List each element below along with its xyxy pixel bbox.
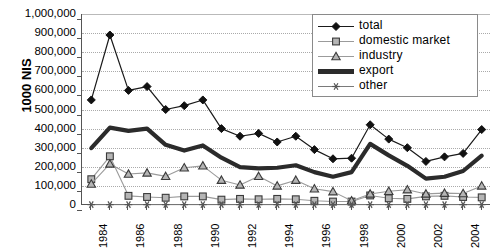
x-tick-label: 1988 (173, 224, 184, 248)
legend-key-icon (317, 49, 355, 62)
data-point-square (333, 38, 340, 45)
legend-item-industry[interactable]: industry (317, 48, 473, 63)
y-tick-label: 800,000 (0, 46, 76, 58)
x-tick-mark (146, 205, 147, 210)
data-point-diamond (441, 153, 449, 161)
x-tick-mark (90, 205, 91, 210)
x-tick-label: 1990 (210, 224, 221, 248)
x-tick-label: 2002 (433, 224, 444, 248)
data-point-diamond (332, 23, 340, 31)
y-tick-label: 400,000 (0, 123, 76, 135)
x-tick-label: 1994 (284, 224, 295, 248)
data-point-star (332, 83, 340, 90)
legend-label: industry (355, 49, 403, 62)
x-tick-mark (109, 205, 110, 210)
x-tick-mark (127, 205, 128, 210)
legend-label: other (355, 79, 387, 92)
y-tick-label: 700,000 (0, 65, 76, 77)
y-tick-label: 200,000 (0, 161, 76, 173)
y-tick-label: 900,000 (0, 27, 76, 39)
x-tick-mark (313, 205, 314, 210)
data-point-diamond (329, 155, 337, 163)
data-point-square (404, 195, 411, 202)
data-point-diamond (310, 146, 318, 154)
data-point-square (181, 193, 188, 200)
y-tick-label: 100,000 (0, 180, 76, 192)
x-tick-label: 2004 (470, 224, 481, 248)
legend-key-icon (317, 64, 355, 77)
y-tick-label: 1,000,000 (0, 8, 76, 20)
data-point-diamond (106, 31, 114, 39)
data-point-diamond (199, 96, 207, 104)
data-point-triangle (310, 185, 318, 192)
x-tick-mark (295, 205, 296, 210)
x-tick-mark (388, 205, 389, 210)
data-point-square (199, 193, 206, 200)
x-tick-label: 1986 (135, 224, 146, 248)
x-tick-mark (481, 205, 482, 210)
legend-label: export (355, 64, 394, 77)
legend-item-domestic-market[interactable]: domestic market (317, 33, 473, 48)
data-point-square (125, 192, 132, 199)
legend-item-total[interactable]: total (317, 18, 473, 33)
x-tick-mark (444, 205, 445, 210)
data-point-diamond (292, 132, 300, 140)
data-point-triangle (403, 186, 411, 193)
legend: totaldomestic marketindustryexportother (312, 14, 478, 97)
y-tick-label: 600,000 (0, 84, 76, 96)
x-tick-label: 1992 (247, 224, 258, 248)
x-tick-mark (165, 205, 166, 210)
data-point-square (218, 196, 225, 203)
x-tick-label: 2000 (396, 224, 407, 248)
x-tick-mark (332, 205, 333, 210)
data-point-square (478, 194, 485, 201)
data-point-square (385, 195, 392, 202)
data-point-triangle (143, 169, 151, 176)
data-point-diamond (180, 102, 188, 110)
x-tick-mark (239, 205, 240, 210)
x-tick-mark (425, 205, 426, 210)
x-tick-label: 1984 (98, 224, 109, 248)
y-tick-label: 500,000 (0, 104, 76, 116)
data-point-diamond (273, 138, 281, 146)
x-tick-mark (220, 205, 221, 210)
data-point-square (144, 194, 151, 201)
series-export (91, 128, 481, 179)
data-point-square (237, 195, 244, 202)
legend-label: total (355, 19, 383, 32)
data-point-triangle (254, 172, 262, 179)
data-point-diamond (217, 125, 225, 133)
y-tick-label: 0 (0, 199, 76, 211)
x-tick-mark (369, 205, 370, 210)
x-axis-ticks (81, 205, 490, 211)
legend-key-icon (317, 34, 355, 47)
data-point-square (162, 194, 169, 201)
data-point-square (274, 195, 281, 202)
y-axis-tick-labels: 1,000,000900,000800,000700,000600,000500… (0, 8, 78, 208)
x-tick-mark (462, 205, 463, 210)
data-point-triangle (292, 176, 300, 183)
data-point-triangle (199, 162, 207, 169)
x-tick-mark (258, 205, 259, 210)
data-point-diamond (255, 129, 263, 137)
legend-key-icon (317, 79, 355, 92)
data-point-triangle (217, 176, 225, 183)
data-point-diamond (348, 154, 356, 162)
data-point-diamond (124, 86, 132, 94)
data-point-square (311, 197, 318, 204)
x-tick-mark (276, 205, 277, 210)
legend-key-icon (317, 19, 355, 32)
legend-label: domestic market (355, 34, 450, 47)
y-tick-label: 300,000 (0, 142, 76, 154)
x-axis-tick-labels: 1984198619881990199219941996199820002002… (81, 212, 490, 248)
x-tick-mark (183, 205, 184, 210)
x-tick-label: 1998 (359, 224, 370, 248)
data-point-triangle (478, 182, 486, 189)
x-tick-label: 1996 (321, 224, 332, 248)
legend-item-export[interactable]: export (317, 63, 473, 78)
legend-item-other[interactable]: other (317, 78, 473, 93)
line-chart: 1000 NIS 1,000,000900,000800,000700,0006… (0, 0, 499, 248)
x-tick-mark (202, 205, 203, 210)
x-tick-mark (351, 205, 352, 210)
data-point-diamond (87, 96, 95, 104)
